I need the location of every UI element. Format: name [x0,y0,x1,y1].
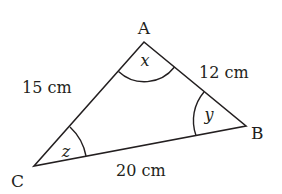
angle-label-z: z [61,142,71,161]
side-label-bc: 20 cm [116,161,166,180]
angle-label-y: y [203,105,214,124]
angle-arc-b [193,92,204,136]
vertex-label-b: B [251,123,264,143]
vertex-label-c: C [11,171,24,191]
angle-arc-c [70,127,86,156]
side-label-ab: 12 cm [199,63,249,82]
side-label-ac: 15 cm [22,78,72,97]
triangle-diagram: A B C 15 cm 12 cm 20 cm x y z [0,0,282,194]
angle-label-x: x [140,51,149,70]
vertex-label-a: A [137,18,151,38]
